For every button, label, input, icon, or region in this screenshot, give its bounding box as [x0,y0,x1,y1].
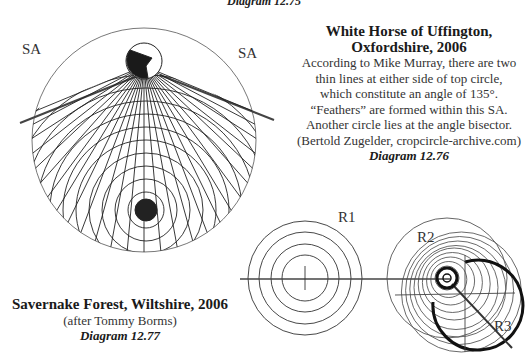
uffington-body-3: which constitute an angle of 135°. [290,86,528,102]
uffington-body-1: According to Mike Murray, there are two [290,55,528,71]
savernake-figure [240,218,523,352]
uffington-body-4: “Feathers” are formed within this SA. [290,102,528,118]
uffington-caption: White Horse of Uffington, Oxfordshire, 2… [290,23,528,164]
sa-left-label: SA [22,41,41,58]
savernake-credit: (after Tommy Borms) [0,313,240,328]
uffington-body-6: (Bertold Zugelder, cropcircle-archive.co… [290,133,528,149]
r3-label: R3 [494,318,512,335]
uffington-title-1: White Horse of Uffington, [290,23,528,39]
savernake-diagram-label: Diagram 12.77 [0,328,240,344]
uffington-body-5: Another circle lies at the angle bisecto… [290,117,528,133]
savernake-title: Savernake Forest, Wiltshire, 2006 [0,296,240,313]
uffington-title-2: Oxfordshire, 2006 [290,39,528,55]
savernake-caption: Savernake Forest, Wiltshire, 2006 (after… [0,296,240,344]
r1-label: R1 [338,209,356,226]
r2-label: R2 [417,229,435,246]
uffington-diagram-label: Diagram 12.76 [290,148,528,164]
sa-right-label: SA [238,45,257,62]
uffington-body-2: thin lines at either side of top circle, [290,71,528,87]
